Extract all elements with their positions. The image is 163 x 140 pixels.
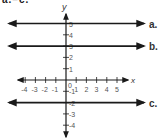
- x-tick-label: 5: [115, 86, 119, 93]
- axes: xy0-4-3-2-11234554321-1-2-3-4: [18, 2, 136, 137]
- x-tick-label: -1: [52, 86, 58, 93]
- x-tick-label: 4: [105, 86, 109, 93]
- x-tick-label: -4: [21, 86, 27, 93]
- y-tick-label: 1: [69, 66, 73, 73]
- y-tick-label: 4: [69, 32, 73, 39]
- x-tick-label: 3: [95, 86, 99, 93]
- y-tick-label: -4: [69, 122, 75, 129]
- y-axis-label: y: [61, 2, 67, 12]
- problem-header: a.–c.: [2, 0, 29, 5]
- line-label-c: c.: [149, 98, 158, 109]
- x-axis-label: x: [130, 76, 136, 85]
- x-tick-label: -2: [42, 86, 48, 93]
- line-label-a: a.: [149, 19, 158, 30]
- coordinate-plane: a.–c. xy0-4-3-2-11234554321-1-2-3-4 a.b.…: [0, 0, 163, 140]
- y-tick-label: 2: [69, 54, 73, 61]
- line-label-b: b.: [149, 41, 158, 52]
- y-tick-label: -1: [69, 88, 75, 95]
- graph-svg: xy0-4-3-2-11234554321-1-2-3-4 a.b.c.: [0, 0, 163, 140]
- x-tick-label: -3: [31, 86, 37, 93]
- x-tick-label: 2: [84, 86, 88, 93]
- horizontal-lines: a.b.c.: [9, 19, 158, 109]
- y-tick-label: -3: [69, 111, 75, 118]
